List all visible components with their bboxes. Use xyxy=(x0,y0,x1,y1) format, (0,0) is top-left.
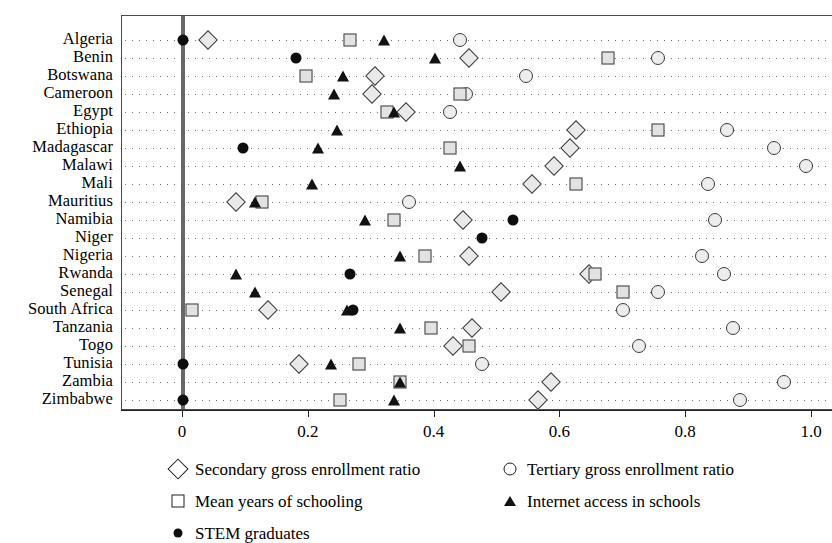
data-point-circle xyxy=(616,303,630,317)
legend-triangle-icon xyxy=(501,492,519,510)
x-axis-tick-label: 0.6 xyxy=(549,422,570,442)
x-axis-tick-labels: 00.20.40.60.81.0 xyxy=(121,410,832,444)
data-point-square xyxy=(444,142,457,155)
grid-row xyxy=(122,148,832,149)
data-point-circle xyxy=(733,393,747,407)
y-axis-label: Namibia xyxy=(55,211,113,228)
legend-item[interactable]: Tertiary gross enrollment ratio xyxy=(501,460,734,478)
legend-item[interactable]: STEM graduates xyxy=(169,524,310,542)
data-point-square xyxy=(419,250,432,263)
y-axis-label: Tunisia xyxy=(63,355,113,372)
data-point-filled-circle xyxy=(237,143,248,154)
x-axis-tick-label: 0.4 xyxy=(423,422,444,442)
grid-row xyxy=(122,292,832,293)
y-axis-label: Mauritius xyxy=(48,193,113,210)
zero-reference-line xyxy=(181,16,185,409)
data-point-diamond xyxy=(289,354,309,374)
legend-filled-circle-icon xyxy=(169,524,187,542)
data-point-triangle xyxy=(328,89,340,100)
data-point-triangle xyxy=(388,395,400,406)
data-point-triangle xyxy=(312,143,324,154)
y-axis-label: Niger xyxy=(75,229,113,246)
data-point-triangle xyxy=(388,107,400,118)
legend-diamond-icon xyxy=(169,460,187,478)
data-point-diamond xyxy=(258,300,278,320)
legend-item[interactable]: Secondary gross enrollment ratio xyxy=(169,460,420,478)
data-point-square xyxy=(343,34,356,47)
data-point-triangle xyxy=(306,179,318,190)
data-point-diamond xyxy=(522,174,542,194)
data-point-circle xyxy=(726,321,740,335)
data-point-filled-circle xyxy=(178,395,189,406)
data-point-triangle xyxy=(325,359,337,370)
y-axis-label: Tanzania xyxy=(53,319,113,336)
y-axis-label: South Africa xyxy=(28,301,113,318)
data-point-diamond xyxy=(198,30,218,50)
y-axis-label: Senegal xyxy=(60,283,113,300)
grid-row xyxy=(122,76,832,77)
data-point-circle xyxy=(651,51,665,65)
data-point-circle xyxy=(695,249,709,263)
data-point-square xyxy=(570,178,583,191)
data-point-square xyxy=(387,214,400,227)
y-axis-label: Togo xyxy=(79,337,113,354)
legend-label: STEM graduates xyxy=(195,525,310,542)
data-point-circle xyxy=(443,105,457,119)
data-point-diamond xyxy=(227,192,247,212)
y-axis-label: Ethiopia xyxy=(56,121,113,138)
y-axis-label: Rwanda xyxy=(58,265,113,282)
data-point-circle xyxy=(799,159,813,173)
data-point-diamond xyxy=(444,336,464,356)
data-point-square xyxy=(463,340,476,353)
grid-row xyxy=(122,220,832,221)
dot-plot-chart: AlgeriaBeninBotswanaCameroonEgyptEthiopi… xyxy=(0,0,832,543)
data-point-diamond xyxy=(459,48,479,68)
y-axis-label: Egypt xyxy=(73,103,113,120)
x-axis-tick-label: 0 xyxy=(178,422,187,442)
y-axis-label: Zambia xyxy=(62,373,113,390)
legend-circle-icon xyxy=(501,460,519,478)
grid-row xyxy=(122,166,832,167)
legend-item[interactable]: Mean years of schooling xyxy=(169,492,363,510)
data-point-triangle xyxy=(394,377,406,388)
y-axis-label: Madagascar xyxy=(32,139,113,156)
y-axis-label: Nigeria xyxy=(63,247,113,264)
data-point-triangle xyxy=(249,197,261,208)
legend-label: Mean years of schooling xyxy=(195,493,363,510)
data-point-diamond xyxy=(528,390,548,410)
x-axis-tick-label: 1.0 xyxy=(800,422,821,442)
legend-item[interactable]: Internet access in schools xyxy=(501,492,700,510)
data-point-triangle xyxy=(378,35,390,46)
data-point-diamond xyxy=(365,66,385,86)
data-point-filled-circle xyxy=(178,359,189,370)
data-point-circle xyxy=(632,339,646,353)
data-point-circle xyxy=(701,177,715,191)
data-point-square xyxy=(453,88,466,101)
data-point-square xyxy=(617,286,630,299)
data-point-triangle xyxy=(454,161,466,172)
legend-square-icon xyxy=(169,492,187,510)
data-point-filled-circle xyxy=(476,233,487,244)
data-point-triangle xyxy=(394,323,406,334)
data-point-circle xyxy=(708,213,722,227)
data-point-filled-circle xyxy=(291,53,302,64)
x-axis-tick-label: 0.8 xyxy=(675,422,696,442)
data-point-triangle xyxy=(230,269,242,280)
data-point-filled-circle xyxy=(178,35,189,46)
data-point-square xyxy=(334,394,347,407)
data-point-square xyxy=(651,124,664,137)
legend-label: Internet access in schools xyxy=(527,493,700,510)
y-axis-label: Malawi xyxy=(62,157,113,174)
data-point-diamond xyxy=(491,282,511,302)
plot-area xyxy=(121,15,832,410)
data-point-circle xyxy=(475,357,489,371)
data-point-triangle xyxy=(359,215,371,226)
data-point-circle xyxy=(402,195,416,209)
grid-row xyxy=(122,310,832,311)
data-point-filled-circle xyxy=(344,269,355,280)
data-point-square xyxy=(588,268,601,281)
y-axis-label: Botswana xyxy=(47,67,113,84)
data-point-filled-circle xyxy=(347,305,358,316)
data-point-square xyxy=(299,70,312,83)
data-point-square xyxy=(601,52,614,65)
